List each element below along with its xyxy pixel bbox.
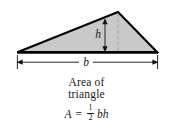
triangle-shape	[18, 12, 157, 52]
caption-line-2: triangle	[0, 88, 173, 101]
triangle-diagram: h b	[0, 0, 173, 72]
caption-line-1: Area of	[0, 76, 173, 89]
fraction-numerator: 1	[88, 104, 94, 113]
formula-rhs-variables: bh	[97, 108, 109, 120]
area-formula: A = 1 2 bh	[0, 104, 173, 123]
area-of-triangle-figure: h b Area of triangle A = 1 2 bh	[0, 0, 173, 129]
fraction-denominator: 2	[88, 114, 94, 123]
base-label: b	[83, 56, 89, 68]
height-label: h	[95, 28, 101, 40]
formula-lhs: A	[64, 108, 71, 120]
formula-equals: =	[76, 108, 83, 120]
formula-fraction-one-half: 1 2	[87, 104, 94, 123]
